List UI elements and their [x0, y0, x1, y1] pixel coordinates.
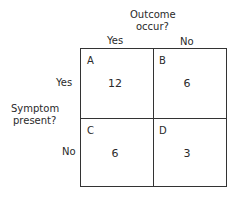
- cell-c-value: 6: [95, 147, 135, 160]
- table-grid: A 12 B 6 C 6 D 3: [80, 48, 227, 187]
- horizontal-divider: [81, 118, 226, 119]
- row-label-yes: Yes: [56, 77, 72, 89]
- cell-d-value: 3: [167, 147, 207, 160]
- column-label-no: No: [180, 36, 194, 48]
- column-label-yes: Yes: [107, 35, 123, 47]
- cell-d-label: D: [159, 125, 167, 136]
- column-title-line1: Outcome: [130, 9, 176, 21]
- row-title-line2: present?: [13, 115, 56, 127]
- row-label-no: No: [62, 146, 76, 158]
- cell-b-value: 6: [167, 77, 207, 90]
- cell-a-label: A: [87, 55, 94, 66]
- cell-b-label: B: [159, 55, 166, 66]
- row-title-line1: Symptom: [11, 103, 59, 115]
- cell-c-label: C: [87, 125, 94, 136]
- cell-a-value: 12: [95, 77, 135, 90]
- column-title-line2: occur?: [136, 21, 169, 33]
